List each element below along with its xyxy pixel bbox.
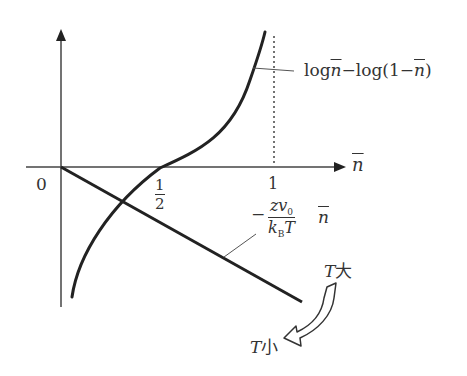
temperature-double-arrow-icon	[284, 283, 336, 346]
log-var-1: n	[331, 60, 342, 80]
tick-label-half: 1 2	[155, 176, 165, 213]
log-var-2: n	[414, 60, 425, 80]
denominator-T: T	[284, 218, 295, 237]
tick-label-one: 1	[268, 174, 278, 193]
tick-half-numerator: 1	[155, 176, 165, 194]
line-label-minus: −	[251, 204, 265, 224]
low-temperature-label: T小	[250, 333, 278, 358]
x-axis-label: n	[352, 154, 364, 175]
y-axis-arrow-icon	[56, 29, 66, 41]
line-label-numerator: zv0	[270, 196, 293, 217]
log-text-2: −log(1−	[342, 60, 415, 80]
numerator-subscript: 0	[287, 207, 293, 217]
line-label-leader	[224, 234, 256, 257]
low-T: T	[250, 337, 261, 357]
high-temperature-label: T大	[324, 257, 352, 282]
tick-half-denominator: 2	[155, 195, 165, 213]
diagram-graphics	[0, 0, 467, 376]
log-curve	[72, 32, 265, 297]
line-label-fraction: zv0 kBT	[268, 196, 295, 239]
high-kanji: 大	[335, 261, 352, 281]
log-text-1: log	[304, 60, 331, 80]
log-curve-leader	[253, 68, 294, 71]
line-label-denominator: kBT	[268, 218, 295, 239]
origin-label: 0	[36, 174, 47, 194]
high-T: T	[324, 261, 335, 281]
low-kanji: 小	[261, 337, 278, 357]
log-curve-label: logn−log(1−n)	[304, 60, 432, 80]
numerator-text: zv	[270, 196, 287, 215]
denominator-k: k	[268, 218, 278, 237]
line-label-var: n	[318, 207, 329, 227]
diagram-canvas: 0 n 1 2 1 logn−log(1−n) − zv0 kBT n T大 T…	[0, 0, 467, 376]
log-text-3: )	[425, 60, 432, 80]
x-axis-arrow-icon	[334, 162, 346, 172]
